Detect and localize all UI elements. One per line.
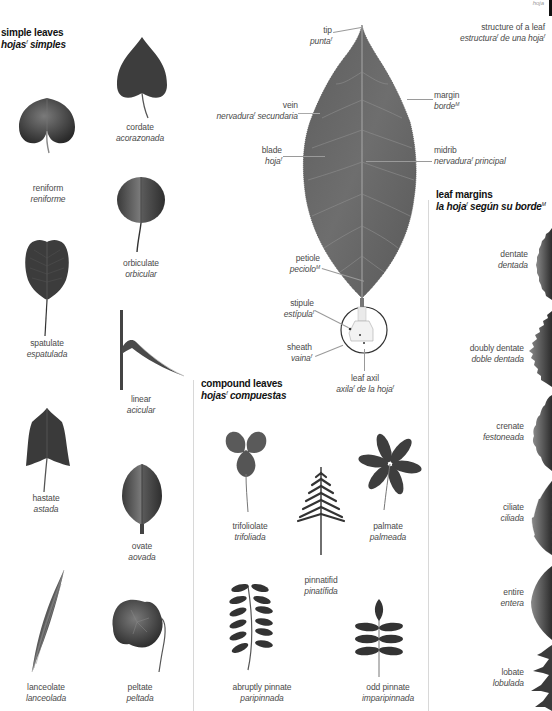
pinnatifid-leaf-icon xyxy=(296,465,346,557)
orbiculate-label: orbiculate orbicular xyxy=(106,258,176,280)
reniform-leaf-icon xyxy=(17,95,77,155)
compound-leaves-title: compound leaves hojasf compuestas xyxy=(201,378,286,402)
odd-pinnate-leaf-icon xyxy=(350,597,410,679)
blade-label: blade hojaf xyxy=(240,145,282,167)
linear-leaf-icon xyxy=(118,310,188,392)
spatulate-label: spatulate espatulada xyxy=(12,338,82,360)
lanceolate-leaf-icon xyxy=(28,568,68,676)
vein-label: vein nervaduraf secundaria xyxy=(190,100,298,122)
trifoliolate-label: trifoliolate trifoliada xyxy=(215,521,285,543)
tip-label: tip puntaf xyxy=(280,25,332,47)
stipule-label: stipule estípulaf xyxy=(270,298,314,320)
margin-label: margin bordeM xyxy=(434,90,494,112)
simple-leaves-title-en: simple leaves xyxy=(1,27,63,38)
main-leaf-diagram-icon xyxy=(300,22,420,322)
doubly-dentate-margin-icon xyxy=(527,311,552,387)
doubly-dentate-label: doubly dentate doble dentada xyxy=(454,343,524,365)
ciliate-margin-icon xyxy=(527,481,552,555)
cordate-label: cordate acorazonada xyxy=(105,122,175,144)
sheath-label: sheath vainaf xyxy=(270,342,312,364)
ciliate-label: ciliate ciliada xyxy=(470,502,524,524)
crenate-label: crenate festoneada xyxy=(454,421,524,443)
simple-leaves-title-es: hojasf simples xyxy=(1,39,66,51)
abruptly-pinnate-label: abruptly pinnate paripinnada xyxy=(222,682,302,704)
leaf-axil-label: leaf axil axilaf de la hojaf xyxy=(324,373,406,395)
palmate-leaf-icon xyxy=(358,432,424,512)
vein-leader-line xyxy=(298,113,320,114)
leaf-margins-title: leaf margins la hojaf según su bordeM xyxy=(436,189,546,213)
lobate-margin-icon xyxy=(525,645,552,711)
peltate-leaf-icon xyxy=(109,598,169,674)
lobate-label: lobate lobulada xyxy=(470,667,524,689)
margin-leader-line xyxy=(407,99,433,100)
cordate-leaf-icon xyxy=(115,35,165,120)
orbiculate-leaf-icon xyxy=(116,176,168,254)
linear-label: linear acicular xyxy=(106,394,176,416)
section-divider-left xyxy=(193,380,194,711)
midrib-leader-line xyxy=(366,161,432,162)
page-corner-text: hoja xyxy=(533,0,544,6)
simple-leaves-title: simple leaves hojasf simples xyxy=(1,27,66,51)
pinnatifid-label: pinnatifid pinatífida xyxy=(289,575,353,597)
crenate-margin-icon xyxy=(528,395,552,471)
axil-leader-line xyxy=(364,349,365,371)
dentate-margin-icon xyxy=(531,228,552,300)
dentate-label: dentate dentada xyxy=(470,249,528,271)
hastate-label: hastate astada xyxy=(11,493,81,515)
palmate-label: palmate palmeada xyxy=(355,521,421,543)
lanceolate-label: lanceolate lanceolada xyxy=(11,682,81,704)
spatulate-leaf-icon xyxy=(22,238,72,338)
ovate-leaf-icon xyxy=(120,462,164,538)
hastate-leaf-icon xyxy=(24,406,74,494)
petiole-label: petiole pecioloM xyxy=(270,253,320,275)
ovate-label: ovate aovada xyxy=(107,541,177,563)
midrib-label: midrib nervaduraf principal xyxy=(434,145,534,167)
blade-leader-line xyxy=(283,156,325,157)
odd-pinnate-label: odd pinnate imparipinnada xyxy=(350,682,426,704)
entire-label: entire entera xyxy=(470,587,524,609)
section-divider-right xyxy=(428,200,429,711)
abruptly-pinnate-leaf-icon xyxy=(226,582,282,674)
trifoliolate-leaf-icon xyxy=(222,430,272,515)
reniform-label: reniform reniforme xyxy=(13,183,83,205)
structure-title: structure of a leaf estructuraf de una h… xyxy=(440,22,545,44)
peltate-label: peltate peltada xyxy=(105,682,175,704)
leaf-axil-detail-icon xyxy=(339,305,389,355)
entire-margin-icon xyxy=(527,566,552,640)
